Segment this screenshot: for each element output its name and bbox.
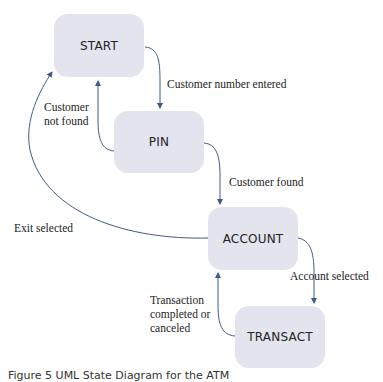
arrow-pin-to-account	[204, 143, 220, 204]
label-transact-to-account-line2: completed or	[150, 307, 210, 321]
label-account-to-transact: Account selected	[290, 269, 369, 283]
label-transact-to-account-line3: canceled	[150, 321, 210, 335]
label-pin-to-start-line1: Customer	[44, 100, 89, 114]
arrow-start-to-pin	[145, 47, 160, 108]
figure-caption: Figure 5 UML State Diagram for the ATM	[8, 369, 229, 382]
label-transact-to-account: Transaction completed or canceled	[150, 293, 210, 335]
label-pin-to-start: Customer not found	[44, 100, 89, 128]
state-transact: TRANSACT	[235, 306, 325, 368]
state-pin: PIN	[114, 111, 204, 173]
arrow-transact-to-account	[218, 273, 235, 336]
label-transact-to-account-line1: Transaction	[150, 293, 210, 307]
state-start: START	[54, 14, 144, 77]
arrow-pin-to-start	[98, 81, 114, 151]
label-pin-to-account: Customer found	[229, 175, 303, 189]
label-start-to-pin: Customer number entered	[167, 77, 286, 91]
state-start-label: START	[80, 39, 118, 53]
state-transact-label: TRANSACT	[247, 330, 313, 344]
state-account-label: ACCOUNT	[223, 232, 284, 246]
state-pin-label: PIN	[149, 135, 169, 149]
label-account-to-start: Exit selected	[14, 221, 73, 235]
state-account: ACCOUNT	[208, 207, 298, 270]
label-pin-to-start-line2: not found	[44, 114, 89, 128]
